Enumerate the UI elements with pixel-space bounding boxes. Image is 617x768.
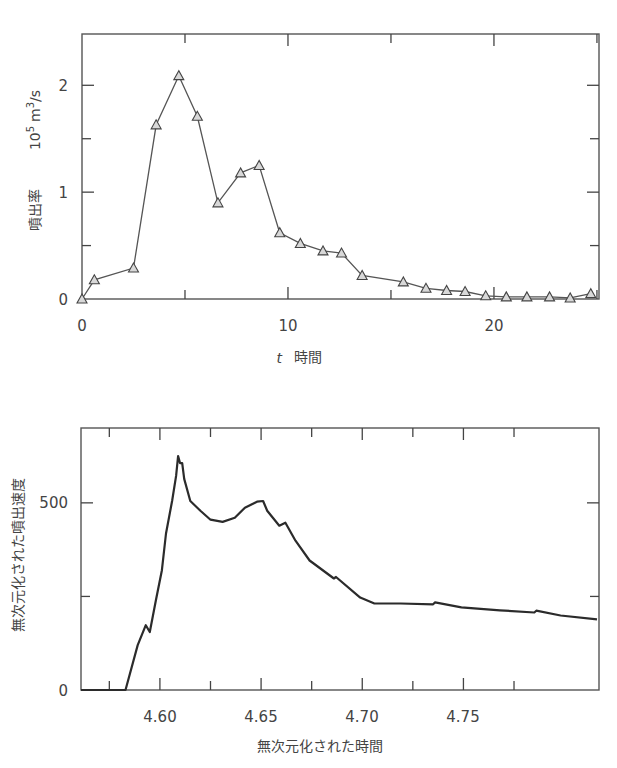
- bottom-ytick-500: 500: [39, 494, 68, 512]
- bottom-chart-velocity: 4.60 4.65 4.70 4.75 0 500 無次元化された噴出速度 無次…: [10, 428, 599, 754]
- top-chart-eruption-rate: 0 10 20 0 1 2 噴出率 105m3/s t 時間: [25, 34, 599, 366]
- bottom-ytick-0: 0: [58, 682, 68, 700]
- top-chart-frame: [82, 34, 599, 299]
- top-xtick-10: 10: [278, 317, 297, 335]
- bottom-xtick-4.60: 4.60: [143, 708, 176, 726]
- bottom-chart-frame: [81, 428, 599, 690]
- top-ytick-1: 1: [58, 184, 68, 202]
- top-chart-ticks: [82, 34, 599, 299]
- top-yunit: 105m3/s: [25, 90, 43, 150]
- figure: 0 10 20 0 1 2 噴出率 105m3/s t 時間 4.60 4.65…: [0, 0, 617, 768]
- top-series-line: [82, 76, 591, 299]
- triangle-marker-icon: [151, 120, 161, 129]
- bottom-xtick-4.70: 4.70: [345, 708, 378, 726]
- bottom-series-line: [81, 456, 597, 690]
- top-y-axis-unit: 105m3/s: [25, 90, 43, 150]
- bottom-chart-ticks: [81, 428, 599, 690]
- triangle-marker-icon: [128, 263, 138, 272]
- bottom-y-axis-title: 無次元化された噴出速度: [10, 478, 26, 632]
- triangle-marker-icon: [174, 71, 184, 80]
- triangle-marker-icon: [192, 111, 202, 120]
- bottom-xlabel: 無次元化された時間: [257, 738, 383, 754]
- triangle-marker-icon: [586, 289, 596, 298]
- top-xtick-20: 20: [484, 317, 503, 335]
- bottom-xtick-4.65: 4.65: [244, 708, 277, 726]
- top-xlabel-t: t: [277, 350, 283, 366]
- triangle-marker-icon: [275, 228, 285, 237]
- top-series-markers: [77, 71, 596, 303]
- top-xlabel-text: 時間: [294, 349, 322, 365]
- top-ytick-2: 2: [58, 77, 68, 95]
- triangle-marker-icon: [254, 160, 264, 169]
- triangle-marker-icon: [236, 168, 246, 177]
- top-ylabel: 噴出率: [27, 189, 43, 231]
- bottom-ylabel: 無次元化された噴出速度: [10, 478, 26, 632]
- triangle-marker-icon: [295, 238, 305, 247]
- top-ytick-0: 0: [58, 291, 68, 309]
- top-xtick-0: 0: [77, 317, 87, 335]
- top-y-axis-title: 噴出率: [27, 189, 43, 231]
- bottom-xtick-4.75: 4.75: [446, 708, 479, 726]
